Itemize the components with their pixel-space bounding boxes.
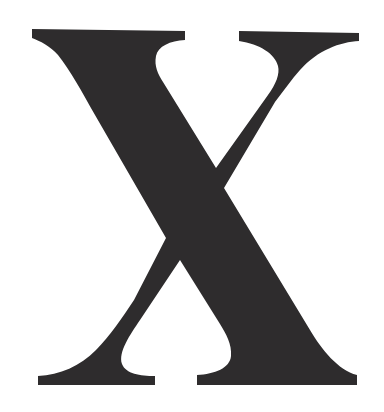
letter-x-glyph: X xyxy=(0,0,384,412)
x-letter-icon xyxy=(0,0,384,412)
